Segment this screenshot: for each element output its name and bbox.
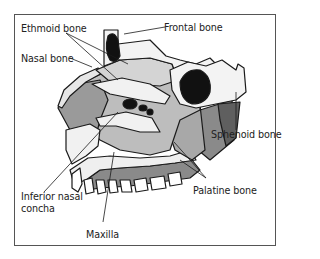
label-ethmoid-bone: Ethmoid bone — [21, 23, 87, 35]
label-nasal-bone: Nasal bone — [21, 53, 74, 65]
label-inferior-nasal-concha-2: concha — [21, 203, 55, 215]
sphenoid-sinus — [180, 70, 210, 104]
label-palatine-bone: Palatine bone — [193, 185, 257, 197]
label-inferior-nasal-concha-1: Inferior nasal — [21, 191, 83, 203]
label-sphenoid-bone: Sphenoid bone — [211, 129, 282, 141]
meatus-opening-2 — [139, 105, 147, 111]
meatus-opening — [123, 99, 137, 109]
label-maxilla: Maxilla — [86, 229, 119, 241]
label-frontal-bone: Frontal bone — [164, 22, 223, 34]
meatus-opening-3 — [147, 109, 153, 115]
